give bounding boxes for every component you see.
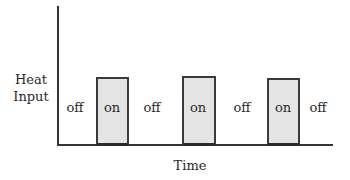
segment-label-on-1: on [104,101,120,114]
segment-label-off-3: off [233,101,250,114]
segment-label-off-2: off [143,101,160,114]
y-axis-label-line1: Heat [8,71,54,88]
segment-label-off-4: off [309,101,326,114]
segment-label-on-2: on [190,101,206,114]
segment-label-off-1: off [66,101,83,114]
segment-label-on-3: on [275,101,291,114]
x-axis-label: Time [174,158,207,173]
y-axis-label-line2: Input [8,88,54,105]
y-axis-label: Heat Input [8,71,54,105]
y-axis [57,6,59,146]
